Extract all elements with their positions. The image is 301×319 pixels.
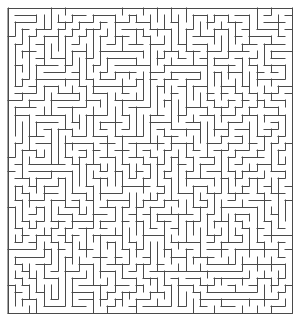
maze-figure: Rectangular perfect maze: [0, 0, 301, 319]
maze-grid: [0, 0, 301, 319]
